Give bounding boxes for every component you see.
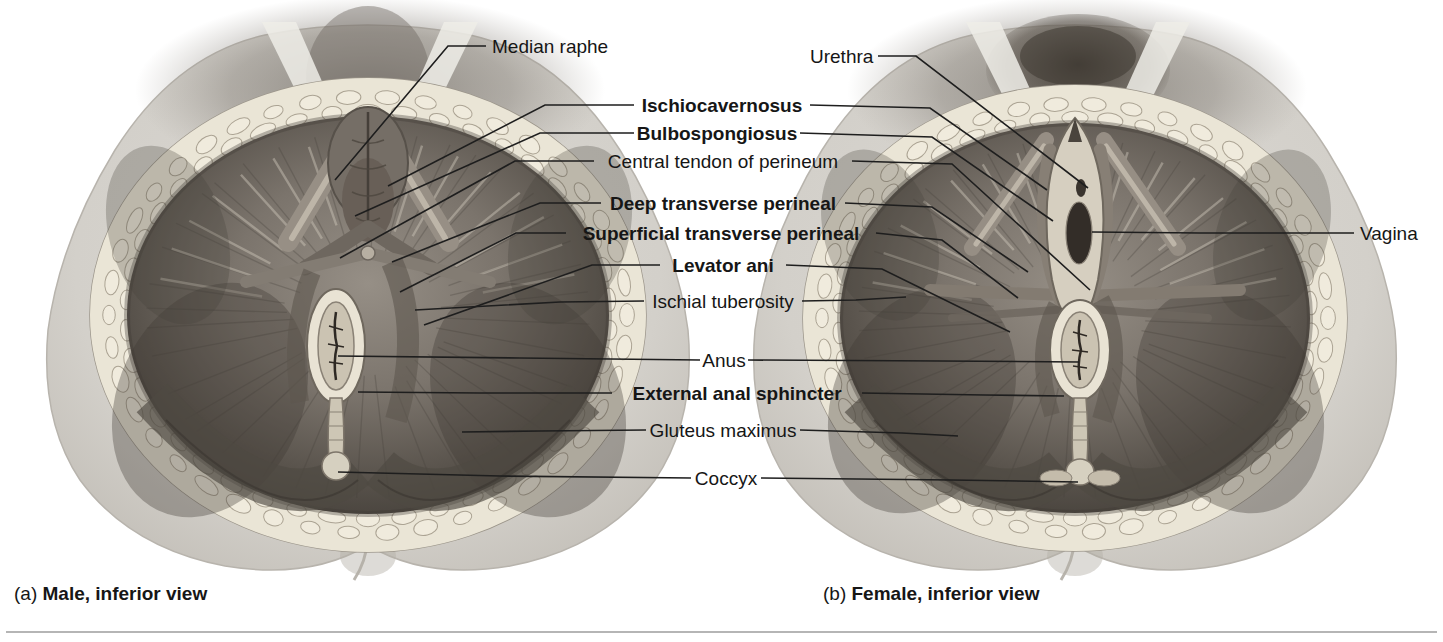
bottom-rule [6,631,1437,633]
label-coccyx: Coccyx [695,468,757,489]
label-deep-transverse: Deep transverse perineal [610,193,836,214]
label-bulbospongiosus: Bulbospongiosus [637,123,797,144]
label-central-tendon: Central tendon of perineum [608,151,838,172]
caption-female-title: Female, inferior view [852,583,1040,604]
female-coccyx [1072,398,1088,462]
label-urethra: Urethra [810,46,873,67]
label-median-raphe: Median raphe [492,36,608,57]
label-superficial-transverse: Superficial transverse perineal [583,223,860,244]
caption-male-prefix: (a) [14,583,43,604]
male-central-tendon [361,246,375,260]
male-coccyx [328,398,344,458]
caption-male-title: Male, inferior view [43,583,208,604]
label-gluteus-maximus: Gluteus maximus [650,420,797,441]
female-vagina [1066,202,1092,264]
caption-female-prefix: (b) [823,583,852,604]
label-external-anal-sphincter: External anal sphincter [632,383,841,404]
male-figure [47,0,690,580]
caption-female: (b) Female, inferior view [823,583,1039,605]
label-ischiocavernosus: Ischiocavernosus [642,95,803,116]
anatomy-figure-page: Median raphe Urethra Ischiocavernosus Bu… [0,0,1443,642]
female-figure [754,0,1397,580]
label-anus: Anus [702,350,745,371]
label-vagina: Vagina [1360,223,1418,244]
caption-male: (a) Male, inferior view [14,583,207,605]
label-ischial-tuberosity: Ischial tuberosity [652,291,794,312]
label-levator-ani: Levator ani [672,255,773,276]
